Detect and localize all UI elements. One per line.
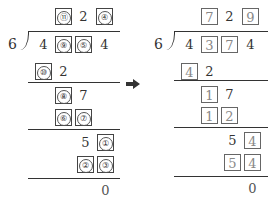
- division-bar: [174, 31, 268, 32]
- quotient-answer-tens: 2: [221, 8, 238, 25]
- step2-digit-2: 7: [221, 86, 238, 103]
- subtraction-line-3: [28, 178, 120, 179]
- step5-answer-1: 5: [224, 154, 241, 171]
- step1-digit-1: ⑩: [35, 63, 52, 80]
- subtraction-line-2: [28, 129, 120, 130]
- quotient-digit-tens: 2: [75, 8, 92, 25]
- step3-digit-1: ⑥: [55, 109, 72, 126]
- problem-panel: ⑪ 2 ④ 6 4 ⑨ ⑤ 4 ⑩ 2 ⑧ 7 ⑥ ⑦ 5 ① ② ③ 0: [0, 0, 138, 202]
- division-bar: [28, 31, 120, 32]
- placeholder-4: ④: [98, 11, 112, 25]
- placeholder-2: ②: [79, 159, 93, 173]
- placeholder-1: ①: [99, 137, 113, 151]
- placeholder-8: ⑧: [57, 90, 71, 104]
- dividend-digit-1: 4: [35, 36, 52, 53]
- quotient-answer-hundreds: 7: [201, 8, 218, 25]
- step5-answer-2: 4: [244, 154, 261, 171]
- divisor: 6: [154, 36, 163, 52]
- subtraction-line-1: [28, 82, 120, 83]
- placeholder-6: ⑥: [57, 112, 71, 126]
- dividend-digit-4: 4: [242, 36, 259, 53]
- subtraction-line-2: [174, 127, 268, 128]
- placeholder-7: ⑦: [77, 112, 91, 126]
- dividend-digit-1: 4: [181, 36, 198, 53]
- division-bracket: [166, 32, 175, 50]
- step3-answer-1: 1: [201, 107, 218, 124]
- step4-digit-1: 5: [224, 132, 241, 149]
- subtraction-line-3: [174, 176, 268, 177]
- remainder: 0: [97, 182, 114, 199]
- dividend-answer-2: 3: [201, 36, 218, 53]
- placeholder-11: ⑪: [57, 11, 71, 25]
- step1-answer-1: 4: [181, 63, 198, 80]
- step1-digit-2: 2: [201, 63, 218, 80]
- placeholder-3: ③: [99, 159, 113, 173]
- step2-answer-1: 1: [201, 86, 218, 103]
- quotient-answer-ones: 9: [242, 8, 259, 25]
- quotient-digit-hundreds: ⑪: [55, 8, 72, 25]
- step3-answer-2: 2: [221, 107, 238, 124]
- quotient-digit-ones: ④: [96, 8, 113, 25]
- dividend-answer-3: 7: [221, 36, 238, 53]
- placeholder-5: ⑤: [77, 39, 91, 53]
- remainder: 0: [244, 180, 261, 197]
- step4-digit-2: ①: [97, 134, 114, 151]
- dividend-digit-3: ⑤: [75, 36, 92, 53]
- solution-panel: 7 2 9 6 4 3 7 4 4 2 1 7 1 2 5 4 5 4 0: [138, 0, 276, 202]
- step2-digit-1: ⑧: [55, 87, 72, 104]
- step4-digit-1: 5: [77, 134, 94, 151]
- step4-answer-2: 4: [244, 132, 261, 149]
- step5-digit-2: ③: [97, 156, 114, 173]
- division-bracket: [20, 32, 29, 50]
- dividend-digit-2: ⑨: [55, 36, 72, 53]
- placeholder-9: ⑨: [57, 39, 71, 53]
- subtraction-line-1: [174, 80, 268, 81]
- step5-digit-1: ②: [77, 156, 94, 173]
- step2-digit-2: 7: [75, 87, 92, 104]
- dividend-digit-4: 4: [96, 36, 113, 53]
- step1-digit-2: 2: [55, 63, 72, 80]
- step3-digit-2: ⑦: [75, 109, 92, 126]
- placeholder-10: ⑩: [37, 66, 51, 80]
- divisor: 6: [8, 36, 17, 52]
